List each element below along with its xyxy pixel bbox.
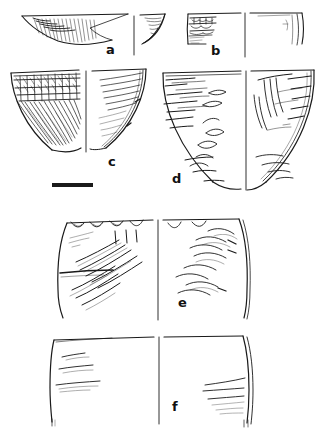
figure-label-b: b <box>211 44 220 57</box>
scale-bar <box>52 183 93 187</box>
vessel-e-drawing <box>58 219 250 320</box>
vessel-d-drawing <box>163 70 314 190</box>
figure-label-c: c <box>108 155 116 168</box>
pottery-drawings-svg <box>0 0 329 433</box>
vessel-c-drawing <box>11 69 146 152</box>
vessel-b-drawing <box>187 13 303 57</box>
figure-label-a: a <box>106 43 115 56</box>
vessel-f-drawing <box>50 336 253 427</box>
figure-label-d: d <box>172 172 181 185</box>
figure-plate: a b c d e f <box>0 0 329 433</box>
figure-label-f: f <box>172 400 178 413</box>
figure-label-e: e <box>178 296 187 309</box>
vessel-a-drawing <box>22 14 165 55</box>
